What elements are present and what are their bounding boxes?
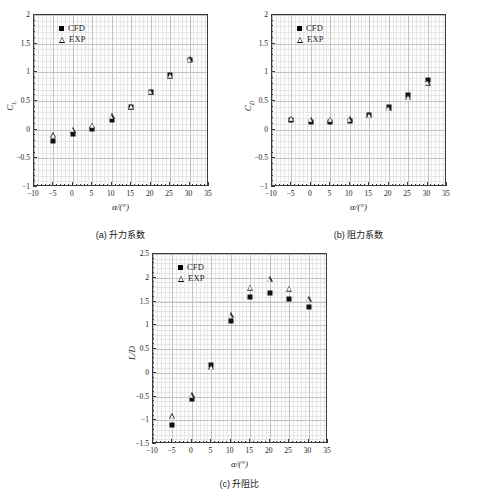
y-axis-subscript: D [248, 101, 255, 106]
y-tick-label: −1.5 [126, 439, 149, 448]
data-point-exp [306, 296, 312, 302]
y-tick-label: −1 [7, 182, 30, 191]
data-point-exp [347, 116, 353, 122]
y-minor-tick [152, 305, 154, 306]
x-tick [230, 439, 231, 443]
x-minor-tick [276, 441, 277, 443]
y-tick-label: 0 [245, 124, 268, 133]
legend-label-exp: EXP [188, 273, 205, 284]
y-minor-tick [152, 381, 154, 382]
figure-root: −10−505101520253035−1−0.500.511.52α/(°)C… [0, 0, 478, 496]
y-tick-label: 2 [126, 272, 149, 281]
data-point-exp [50, 132, 56, 138]
x-tick [349, 182, 350, 186]
x-tick-label: 10 [226, 446, 234, 455]
x-minor-tick [319, 441, 320, 443]
x-minor-tick [37, 184, 38, 186]
y-minor-tick [152, 343, 154, 344]
open-triangle-icon [59, 37, 65, 43]
x-minor-tick [372, 184, 373, 186]
y-minor-tick [33, 89, 35, 90]
y-minor-tick [33, 169, 35, 170]
legend-label-cfd: CFD [68, 23, 85, 34]
data-point-exp [89, 122, 95, 128]
y-tick-label: 1 [245, 67, 268, 76]
x-minor-tick [306, 184, 307, 186]
x-tick [111, 182, 112, 186]
x-minor-tick [323, 441, 324, 443]
y-minor-tick [271, 123, 273, 124]
data-point-exp [109, 113, 115, 119]
x-minor-tick [283, 184, 284, 186]
legend-entry-cfd: CFD [59, 23, 86, 34]
y-tick-label: 1.5 [245, 38, 268, 47]
y-minor-tick [271, 60, 273, 61]
y-axis-title: CL [5, 101, 17, 111]
x-minor-tick [161, 184, 162, 186]
x-minor-tick [76, 184, 77, 186]
x-minor-tick [192, 184, 193, 186]
x-minor-tick [218, 441, 219, 443]
y-minor-tick [271, 152, 273, 153]
x-tick [288, 439, 289, 443]
y-minor-tick [33, 83, 35, 84]
x-minor-tick [257, 441, 258, 443]
y-axis-title: CD [243, 101, 255, 112]
x-minor-tick [322, 184, 323, 186]
data-point-exp [327, 116, 333, 122]
x-minor-tick [357, 184, 358, 186]
y-minor-tick [152, 386, 154, 387]
y-tick-label: 2 [245, 10, 268, 19]
y-tick-label: −0.5 [126, 391, 149, 400]
y-tick-label: 2 [7, 10, 30, 19]
y-axis-symbol: C [243, 105, 253, 111]
y-tick-label: 0 [7, 124, 30, 133]
y-minor-tick [152, 319, 154, 320]
y-minor-tick [271, 66, 273, 67]
x-tick [208, 182, 209, 186]
y-minor-tick [271, 31, 273, 32]
x-minor-tick [438, 184, 439, 186]
data-point-exp [128, 103, 134, 109]
x-minor-tick [64, 184, 65, 186]
x-axis-title: α/(°) [112, 202, 129, 212]
y-tick [33, 43, 37, 44]
x-tick-label: 0 [189, 446, 193, 455]
data-point-cfd [228, 318, 233, 323]
y-minor-tick [271, 54, 273, 55]
x-minor-tick [434, 184, 435, 186]
legend-entry-cfd: CFD [178, 262, 205, 273]
data-point-exp [288, 115, 294, 121]
x-minor-tick [181, 184, 182, 186]
y-axis-subscript: L [10, 101, 17, 105]
y-minor-tick [271, 83, 273, 84]
y-minor-tick [152, 410, 154, 411]
x-minor-tick [222, 441, 223, 443]
panel-caption-c: (c) 升阻比 [220, 477, 260, 490]
x-minor-tick [296, 441, 297, 443]
y-minor-tick [152, 400, 154, 401]
y-minor-tick [271, 146, 273, 147]
x-tick [290, 182, 291, 186]
y-minor-tick [271, 140, 273, 141]
x-minor-tick [395, 184, 396, 186]
y-minor-tick [271, 117, 273, 118]
y-minor-tick [152, 367, 154, 368]
y-minor-tick [33, 48, 35, 49]
x-tick-label: 20 [265, 446, 273, 455]
y-minor-tick [33, 37, 35, 38]
y-minor-tick [271, 48, 273, 49]
x-minor-tick [384, 184, 385, 186]
x-tick-label: 5 [89, 189, 93, 198]
x-axis-title: α/(°) [231, 459, 248, 469]
y-minor-tick [271, 129, 273, 130]
x-minor-tick [392, 184, 393, 186]
y-minor-tick [271, 20, 273, 21]
x-minor-tick [311, 441, 312, 443]
x-tick-label: 30 [423, 189, 431, 198]
x-tick [249, 439, 250, 443]
x-minor-tick [165, 184, 166, 186]
y-minor-tick [152, 315, 154, 316]
data-point-exp [167, 72, 173, 78]
y-minor-tick [271, 25, 273, 26]
